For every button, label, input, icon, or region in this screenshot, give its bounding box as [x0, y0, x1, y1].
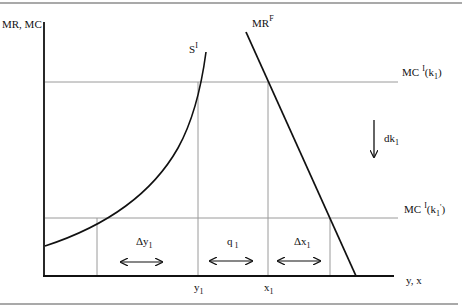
interval-label-delta-y: Δy1 — [136, 235, 153, 250]
lower-mc-label: MCI(k1') — [404, 201, 445, 218]
supply-curve-label: SI — [189, 41, 198, 55]
supply-curve — [45, 52, 206, 246]
upper-mc-label: MCI(k1) — [402, 64, 442, 81]
economics-diagram: MR, MC y, x SI MRF MCI(k1) MCI(k1') dk1 … — [0, 0, 462, 307]
y-axis-label: MR, MC — [2, 18, 42, 30]
tick-label-x1: x1 — [264, 281, 274, 296]
interval-label-q: q1 — [227, 235, 239, 250]
x-axis-label: y, x — [406, 274, 422, 286]
tick-label-y1: y1 — [194, 281, 204, 296]
mr-line-label: MRF — [252, 14, 274, 29]
shift-label: dk1 — [384, 132, 399, 147]
interval-label-delta-x: Δx1 — [294, 235, 311, 250]
